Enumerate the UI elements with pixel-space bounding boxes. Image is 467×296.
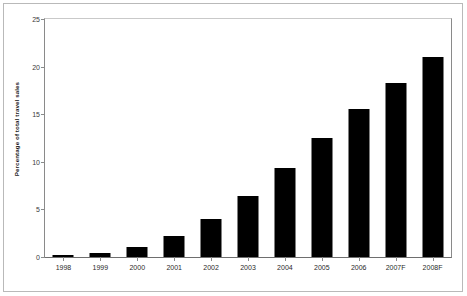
x-axis-tick-label: 2001 <box>166 264 182 271</box>
bar-slot <box>414 19 451 257</box>
chart-figure: Percentage of total travel sales 0510152… <box>0 0 467 296</box>
bar <box>422 57 443 257</box>
y-axis-tick-label: 0 <box>36 254 40 261</box>
y-axis-tick-label: 10 <box>32 158 40 165</box>
bar <box>311 138 332 257</box>
x-axis-tick-label: 2000 <box>129 264 145 271</box>
x-axis-tick <box>174 257 175 261</box>
bar <box>348 109 369 257</box>
x-axis-tick <box>63 257 64 261</box>
bar-slot <box>230 19 267 257</box>
x-axis-tick <box>100 257 101 261</box>
bar-slot <box>156 19 193 257</box>
bar <box>127 247 148 257</box>
bar <box>274 168 295 257</box>
x-axis-tick <box>211 257 212 261</box>
x-axis-tick <box>248 257 249 261</box>
x-axis-tick-label: 1999 <box>93 264 109 271</box>
x-axis-tick-label: 2003 <box>240 264 256 271</box>
y-axis-tick-label: 5 <box>36 206 40 213</box>
x-axis-tick <box>433 257 434 261</box>
bar-slot <box>119 19 156 257</box>
bar-slot <box>82 19 119 257</box>
x-axis-tick-label: 2005 <box>314 264 330 271</box>
bar-slot <box>303 19 340 257</box>
x-axis-tick-label: 2002 <box>203 264 219 271</box>
x-axis-tick-label: 2008F <box>423 264 443 271</box>
x-axis-tick-label: 2006 <box>351 264 367 271</box>
bar <box>385 83 406 257</box>
x-axis-tick-label: 2004 <box>277 264 293 271</box>
bar-slot <box>340 19 377 257</box>
y-axis-tick-label: 20 <box>32 63 40 70</box>
bar <box>201 219 222 257</box>
x-axis-tick <box>285 257 286 261</box>
x-axis-tick <box>359 257 360 261</box>
y-axis-tick-label: 25 <box>32 16 40 23</box>
bar <box>164 236 185 257</box>
x-axis-tick <box>322 257 323 261</box>
bar-slot <box>377 19 414 257</box>
x-axis-tick-label: 2007F <box>386 264 406 271</box>
y-axis-tick <box>41 257 45 258</box>
bar-series <box>45 19 451 257</box>
bar-slot <box>193 19 230 257</box>
x-axis-tick <box>137 257 138 261</box>
y-axis-tick-label: 15 <box>32 111 40 118</box>
bar-slot <box>266 19 303 257</box>
x-axis-tick-label: 1998 <box>56 264 72 271</box>
plot-area: 0510152025 19981999200020012002200320042… <box>44 18 452 258</box>
x-axis-tick <box>396 257 397 261</box>
y-axis-title: Percentage of total travel sales <box>9 0 23 258</box>
bar <box>237 196 258 257</box>
bar-slot <box>45 19 82 257</box>
